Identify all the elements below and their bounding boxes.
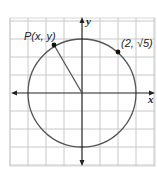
point-p (52, 43, 57, 48)
circle-graph: x y P(x, y) (2, √5) (0, 0, 157, 174)
point-2-sqrt5 (116, 50, 121, 55)
point-p-label: P(x, y) (24, 30, 56, 42)
y-axis-label: y (84, 15, 91, 27)
x-axis-label: x (147, 93, 154, 105)
point-2-sqrt5-label: (2, √5) (121, 37, 153, 49)
